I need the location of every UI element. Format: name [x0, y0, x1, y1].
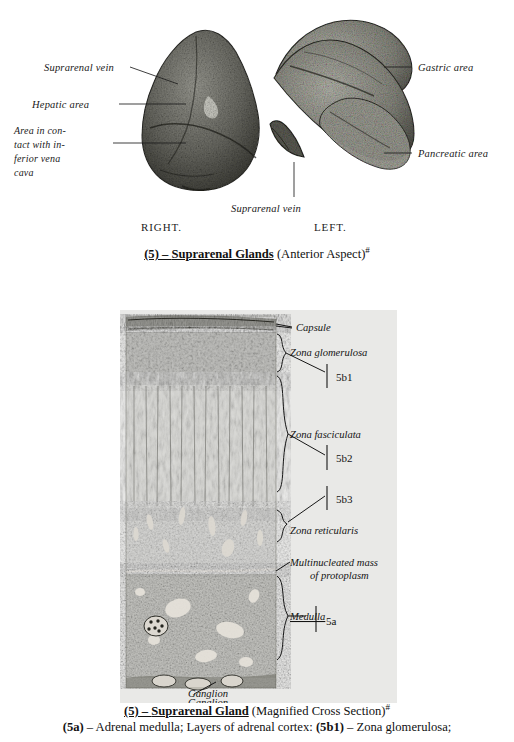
caption-histology-number: (5) – [124, 704, 151, 718]
label-side-right: RIGHT. [141, 221, 182, 233]
medulla-layer [126, 574, 276, 678]
label-zona-glomerulosa: Zona glomerulosa [290, 347, 367, 358]
caption-legend: (5a) – Adrenal medulla; Layers of adrena… [0, 719, 514, 736]
figure-suprarenal-glands-gross: Suprarenal vein Hepatic area Area in con… [0, 0, 514, 238]
histology-illustration: Capsule Zona glomerulosa Zona fasciculat… [120, 310, 397, 703]
caption-gross-aspect: (Anterior Aspect) [274, 247, 366, 261]
tissue-section [126, 315, 276, 690]
label-zona-fasciculata: Zona fasciculata [290, 429, 361, 440]
key-5a: 5a [326, 615, 337, 627]
capsule-layer [126, 315, 276, 331]
label-ganglion-text: Ganglion [188, 688, 228, 699]
caption-histology-figure: (5) – Suprarenal Gland (Magnified Cross … [0, 702, 514, 720]
zona-glomerulosa-layer [126, 332, 276, 385]
legend-key-5a: (5a) [63, 720, 84, 734]
caption-histology-marker: # [385, 702, 390, 712]
label-zona-reticularis: Zona reticularis [290, 525, 358, 536]
caption-gross-title: Suprarenal Glands [171, 247, 273, 261]
label-hepatic-area: Hepatic area [31, 99, 89, 110]
caption-gross-marker: # [365, 245, 370, 255]
caption-histology-title: Suprarenal Gland [151, 704, 248, 718]
legend-text-5b1: – Zona glomerulosa; [344, 720, 451, 734]
zona-reticularis-layer [126, 507, 276, 570]
label-vena-cava-line3: ferior vena [14, 153, 60, 164]
key-5b3: 5b3 [336, 493, 353, 505]
label-vena-cava-line2: tact with in- [14, 139, 65, 150]
label-suprarenal-vein-right: Suprarenal vein [44, 62, 114, 73]
anatomy-plate: Suprarenal vein Hepatic area Area in con… [0, 0, 514, 742]
key-5b2: 5b2 [336, 452, 353, 464]
label-suprarenal-vein-left: Suprarenal vein [231, 203, 301, 214]
caption-histology-aspect: (Magnified Cross Section) [249, 704, 386, 718]
zona-fasciculata-layer [126, 385, 276, 508]
left-suprarenal-gland-drawing [270, 20, 414, 169]
right-suprarenal-gland-drawing [142, 30, 259, 190]
caption-gross-figure: (5) – Suprarenal Glands (Anterior Aspect… [0, 245, 514, 263]
gross-anatomy-illustration: Suprarenal vein Hepatic area Area in con… [0, 0, 514, 238]
legend-text-5a: – Adrenal medulla; Layers of adrenal cor… [84, 720, 316, 734]
label-vena-cava-line1: Area in con- [13, 125, 66, 136]
caption-gross-number: (5) – [144, 247, 171, 261]
ganglion-cluster [144, 616, 168, 636]
label-multinucleated-mass-line1: Multinucleated mass [289, 557, 378, 568]
figure-suprarenal-gland-histology: Capsule Zona glomerulosa Zona fasciculat… [120, 310, 397, 703]
label-side-left: LEFT. [314, 221, 347, 233]
ganglion-label-group: Ganglion [120, 682, 397, 702]
label-gastric-area: Gastric area [418, 62, 473, 73]
label-medulla: Medulla [289, 611, 325, 622]
label-capsule: Capsule [296, 322, 331, 333]
key-5b1: 5b1 [336, 371, 353, 383]
label-vena-cava-line4: cava [14, 167, 34, 178]
label-pancreatic-area: Pancreatic area [417, 148, 488, 159]
label-multinucleated-mass-line2: of protoplasm [310, 570, 369, 581]
legend-key-5b1: (5b1) [316, 720, 344, 734]
